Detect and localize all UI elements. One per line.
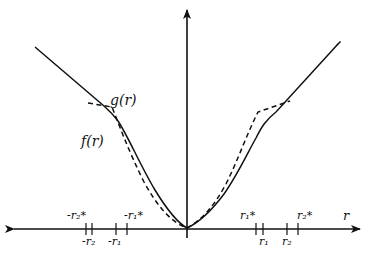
tick-label-neg-r1: -r₁ [108, 235, 121, 248]
label-f: f(r) [80, 133, 104, 149]
tick-label-r2-star: r₂* [297, 209, 313, 222]
tick-label-neg-r1-star: -r₁* [124, 209, 143, 222]
curve-g [88, 101, 290, 228]
label-g: g(r) [110, 92, 137, 108]
tick-label-r1-star: r₁* [240, 209, 256, 222]
tick-label-r2: r₂ [282, 235, 292, 248]
diagram: g(r) f(r) r -r₂* -r₁* r₁* r₂* -r₂ -r₁ r₁… [0, 0, 369, 258]
r-axis-label: r [343, 208, 350, 223]
tick-label-neg-r2: -r₂ [82, 235, 95, 248]
tick-label-neg-r2-star: -r₂* [67, 209, 86, 222]
curve-g-tail [337, 40, 342, 45]
tick-label-r1: r₁ [259, 235, 269, 248]
